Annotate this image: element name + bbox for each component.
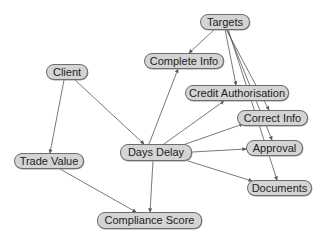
edge-targets-to-documents bbox=[228, 29, 277, 180]
edge-days_delay-to-approval bbox=[192, 149, 246, 152]
edge-days_delay-to-complete_info bbox=[149, 69, 178, 144]
node-complete-info: Complete Info bbox=[144, 53, 224, 69]
node-credit-authorisation: Credit Authorisation bbox=[185, 85, 289, 101]
edge-days_delay-to-compliance_score bbox=[150, 161, 153, 212]
edge-days_delay-to-credit_authorisation bbox=[164, 101, 224, 144]
edge-client-to-days_delay bbox=[75, 80, 144, 144]
node-days-delay: Days Delay bbox=[120, 144, 192, 161]
edge-targets-to-complete_info bbox=[189, 29, 215, 53]
edge-days_delay-to-correct_info bbox=[180, 124, 243, 146]
node-client: Client bbox=[46, 64, 88, 80]
node-approval: Approval bbox=[246, 140, 303, 156]
node-correct-info: Correct Info bbox=[237, 110, 308, 126]
node-compliance-score: Compliance Score bbox=[97, 212, 202, 229]
edge-trade_value-to-compliance_score bbox=[60, 169, 136, 212]
node-targets: Targets bbox=[200, 14, 250, 30]
edge-days_delay-to-documents bbox=[185, 160, 252, 181]
node-documents: Documents bbox=[247, 180, 312, 196]
edge-client-to-trade_value bbox=[50, 80, 64, 153]
node-trade-value: Trade Value bbox=[14, 153, 84, 169]
